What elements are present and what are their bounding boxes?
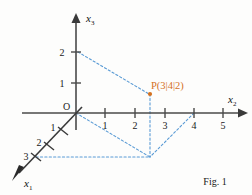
axis-x2-group [22, 108, 248, 118]
axis-x1-arrowhead [12, 165, 24, 181]
helper-lines-group [36, 52, 194, 157]
figure-container: x3 x2 x1 O 1 2 1 2 3 4 5 1 2 3 P(3|4|2) … [0, 0, 252, 195]
point-p-marker [148, 92, 152, 96]
axis-x1-line [19, 107, 82, 173]
tick-label-x1-1: 1 [51, 122, 56, 133]
tick-label-x2-3: 3 [163, 120, 168, 131]
origin-label: O [63, 101, 70, 112]
axis-x1-group [12, 107, 82, 181]
tick-label-x2-2: 2 [133, 120, 138, 131]
figure-caption: Fig. 1 [203, 176, 226, 187]
axis-label-x2: x2 [227, 93, 237, 108]
tick-label-x2-1: 1 [103, 120, 108, 131]
tick-label-x2-5: 5 [221, 120, 226, 131]
point-label-p: P(3|4|2) [151, 80, 184, 92]
axis-x3-arrowhead [72, 13, 81, 23]
tick-label-x2-4: 4 [192, 120, 197, 131]
axis-label-x3: x3 [85, 12, 95, 27]
tick-label-x3-2: 2 [60, 47, 65, 58]
tick-label-x1-3: 3 [24, 151, 29, 162]
helper-line-x2-to-base [150, 113, 194, 157]
helper-line-x3-to-p [78, 52, 149, 94]
axis-label-x1: x1 [23, 177, 33, 192]
tick-label-x3-1: 1 [60, 78, 65, 89]
axis-x2-arrowhead [238, 109, 248, 118]
tick-label-x1-2: 2 [37, 137, 42, 148]
coordinate-system-diagram: x3 x2 x1 O 1 2 1 2 3 4 5 1 2 3 P(3|4|2) … [0, 0, 252, 195]
helper-line-origin-to-base [76, 113, 150, 157]
